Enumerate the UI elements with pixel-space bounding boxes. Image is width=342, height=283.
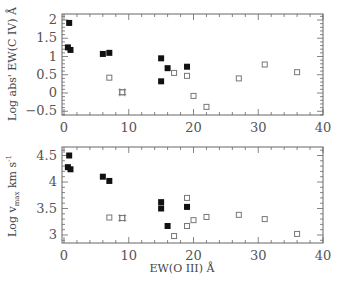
data-point-open: [236, 76, 241, 81]
bottom-panel: 33.544.5010203040: [36, 147, 331, 263]
y-tick-label: 0.5: [36, 67, 57, 82]
data-point-open: [204, 214, 209, 219]
x-tick-label: 0: [60, 248, 68, 263]
data-point-open: [191, 218, 196, 223]
data-point-filled: [184, 64, 190, 70]
data-point-filled: [66, 153, 72, 159]
bottom-y-axis-label-sub: max: [13, 192, 21, 207]
x-tick-label: 40: [315, 248, 332, 263]
data-point-filled: [158, 199, 164, 205]
x-tick-label: 10: [120, 248, 137, 263]
data-point-open: [204, 104, 209, 109]
x-tick-label: 30: [250, 248, 267, 263]
x-tick-label: 10: [120, 120, 137, 135]
data-point-filled: [67, 166, 73, 172]
x-tick-label: 20: [185, 248, 202, 263]
data-point-filled: [165, 223, 171, 229]
y-tick-label: 0: [49, 85, 57, 100]
data-point-crossed: [118, 88, 126, 96]
y-tick-label: 1.5: [36, 30, 57, 45]
data-point-open: [185, 195, 190, 200]
data-point-open: [185, 223, 190, 228]
top-y-axis-label: Log abs' EW(C IV) Å: [5, 6, 19, 121]
data-point-filled: [165, 65, 171, 71]
y-tick-label: 3: [49, 227, 57, 242]
x-tick-label: 40: [315, 120, 332, 135]
data-point-open: [107, 75, 112, 80]
data-point-open: [172, 234, 177, 239]
bottom-y-axis-label-unit: km s: [6, 161, 19, 191]
data-point-open: [262, 62, 267, 67]
data-point-open: [191, 93, 196, 98]
y-tick-label: 3.5: [36, 201, 57, 216]
data-point-filled: [100, 174, 106, 180]
bottom-y-axis-label-sup: -1: [5, 155, 13, 162]
data-point-open: [295, 231, 300, 236]
y-tick-label: 4.5: [36, 148, 57, 163]
data-point-filled: [67, 47, 73, 53]
x-tick-label: 20: [185, 120, 202, 135]
top-panel: −0.500.511.52010203040: [25, 12, 331, 135]
data-point-crossed: [118, 214, 126, 222]
y-tick-label: 2: [49, 12, 57, 27]
y-tick-label: 4: [49, 174, 57, 189]
bottom-y-axis-label: Log vmax km s-1: [5, 155, 21, 237]
data-point-filled: [184, 204, 190, 210]
data-point-filled: [106, 50, 112, 56]
y-tick-label: −0.5: [25, 103, 57, 118]
data-point-open: [236, 212, 241, 217]
chart-figure: −0.500.511.52010203040 33.544.5010203040…: [0, 0, 342, 283]
plot-frame: [62, 147, 323, 243]
y-tick-label: 1: [49, 49, 57, 64]
x-tick-label: 0: [60, 120, 68, 135]
x-axis-label: EW(O III) Å: [150, 261, 216, 275]
data-point-open: [262, 217, 267, 222]
data-point-filled: [100, 51, 106, 57]
data-point-filled: [106, 178, 112, 184]
data-point-filled: [158, 55, 164, 61]
data-point-open: [295, 70, 300, 75]
bottom-y-axis-label-main: Log v: [6, 206, 19, 237]
data-point-open: [172, 70, 177, 75]
data-point-filled: [158, 78, 164, 84]
data-point-open: [107, 215, 112, 220]
plot-frame: [62, 14, 323, 115]
data-point-open: [185, 73, 190, 78]
x-tick-label: 30: [250, 120, 267, 135]
data-point-filled: [66, 20, 72, 26]
data-point-filled: [158, 206, 164, 212]
